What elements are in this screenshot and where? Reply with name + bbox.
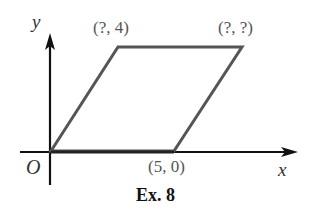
figure-caption: Ex. 8 [136, 186, 175, 204]
coordinate-diagram [0, 0, 312, 215]
vertex-label-top-left: (?, 4) [93, 19, 129, 36]
parallelogram [51, 47, 242, 151]
vertex-label-bottom-right: (5, 0) [148, 158, 185, 175]
vertex-label-top-right: (?, ?) [218, 19, 253, 36]
y-axis-label: y [32, 12, 40, 31]
x-axis-label: x [278, 160, 286, 179]
origin-label: O [26, 157, 40, 177]
